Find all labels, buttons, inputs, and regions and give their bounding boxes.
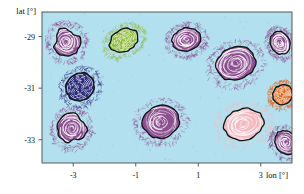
x-tick-label: 3 xyxy=(259,171,263,180)
eddy-map-svg: -3-113-29-31-33 lat [°] lon [°] xyxy=(0,0,304,194)
x-tick-label: -3 xyxy=(70,171,77,180)
x-tick-label: -1 xyxy=(132,171,139,180)
y-tick-label: -29 xyxy=(24,33,35,42)
eddy-map-figure: -3-113-29-31-33 lat [°] lon [°] xyxy=(0,0,304,194)
y-axis-label: lat [°] xyxy=(16,6,36,16)
x-tick-label: 1 xyxy=(196,171,200,180)
y-tick-label: -33 xyxy=(24,136,35,145)
y-tick-label: -31 xyxy=(24,84,35,93)
x-axis-label: lon [°] xyxy=(266,170,288,180)
